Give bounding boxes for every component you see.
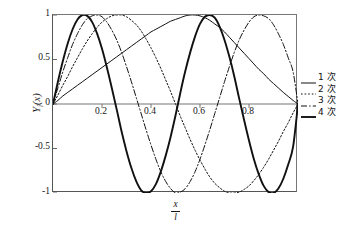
legend-line-swatch [301,73,316,81]
plot-area [52,14,297,192]
x-axis-denominator: l [171,213,179,223]
y-tick-label: -0.5 [14,141,50,151]
x-axis-fraction: x l [171,200,179,223]
y-tick-label: -1 [14,186,50,196]
legend-line-swatch [301,84,316,92]
x-tick-label: 0.8 [231,106,265,116]
x-axis-numerator: x [171,200,179,210]
mode-curve-1 [53,15,298,104]
legend-item-label: 4 次 [318,105,336,118]
x-axis-label: x l [0,200,351,224]
y-tick-label: 0 [14,97,50,107]
plot-canvas [53,15,298,193]
legend-line-swatch [301,107,316,115]
x-tick-label: 0.6 [182,106,216,116]
y-axis-ticks: 10.50-0.5-1 [8,0,50,227]
y-tick-label: 0.5 [14,52,50,62]
chart-figure: Yi(x) 10.50-0.5-1 0.20.40.60.8 x l 1 次2 … [0,0,351,227]
y-tick-label: 1 [14,8,50,18]
legend: 1 次2 次3 次4 次 [301,71,351,117]
x-tick-label: 0.4 [133,106,167,116]
legend-line-swatch [301,96,316,104]
x-tick-label: 0.2 [84,106,118,116]
legend-item-4[interactable]: 4 次 [301,106,351,118]
